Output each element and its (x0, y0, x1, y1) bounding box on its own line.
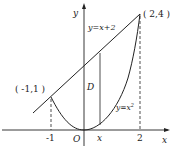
tick-label-2: 2 (137, 133, 143, 143)
y-axis-arrow-icon (82, 3, 86, 9)
point-label-2-4: ( 2,4 ) (143, 9, 170, 19)
tick-label-neg1: -1 (46, 133, 55, 143)
region-diagram: y x O -1 x 2 ( 2,4 ) ( -1,1 ) y=x+2 y=x2… (0, 0, 173, 148)
line-label: y=x+2 (87, 23, 116, 32)
y-axis-label: y (72, 8, 79, 18)
line-y-equals-x-plus-2 (33, 14, 140, 113)
x-axis-arrow-icon (164, 128, 170, 132)
x-axis-label: x (162, 135, 167, 145)
parabola-label: y=x2 (115, 102, 134, 112)
tick-label-x: x (97, 133, 102, 143)
parabola-exponent: 2 (130, 102, 134, 108)
region-label-D: D (86, 82, 94, 92)
point-label-neg1-1: ( -1,1 ) (15, 84, 45, 94)
origin-label: O (73, 134, 81, 144)
